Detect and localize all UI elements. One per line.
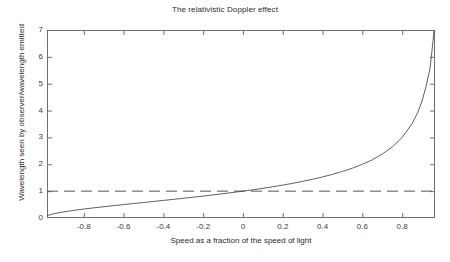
y-tick-label: 1: [29, 187, 43, 195]
y-tick-label: 6: [29, 53, 43, 61]
y-tick-label: 2: [29, 160, 43, 168]
y-tick-label: 5: [29, 80, 43, 88]
series-group: [47, 30, 435, 216]
x-axis-tick-labels: -0.8-0.6-0.4-0.200.20.40.60.8: [47, 222, 435, 234]
plot-svg: [47, 30, 435, 218]
x-axis-label: Speed as a fraction of the speed of ligh…: [47, 236, 435, 245]
x-tick-label: -0.6: [117, 222, 131, 231]
y-axis-label: Wavelength seen by observer/wavelength e…: [17, 15, 26, 211]
x-tick-label: 0.6: [357, 222, 368, 231]
plot-area: [47, 30, 435, 218]
y-tick-label: 0: [29, 214, 43, 222]
x-tick-label: -0.2: [196, 222, 210, 231]
chart-title: The relativistic Doppler effect: [0, 5, 450, 14]
chart-page: The relativistic Doppler effect Waveleng…: [0, 0, 450, 262]
y-tick-label: 3: [29, 133, 43, 141]
x-tick-label: -0.8: [77, 222, 91, 231]
doppler-curve: [47, 30, 435, 216]
y-tick-label: 7: [29, 26, 43, 34]
axes-frame: [48, 31, 435, 218]
x-tick-label: 0: [241, 222, 245, 231]
x-tick-label: -0.4: [156, 222, 170, 231]
y-axis-tick-labels: 01234567: [28, 30, 43, 218]
x-tick-label: 0.2: [277, 222, 288, 231]
y-tick-label: 4: [29, 107, 43, 115]
x-tick-label: 0.8: [397, 222, 408, 231]
x-tick-label: 0.4: [317, 222, 328, 231]
tick-marks: [48, 31, 434, 217]
